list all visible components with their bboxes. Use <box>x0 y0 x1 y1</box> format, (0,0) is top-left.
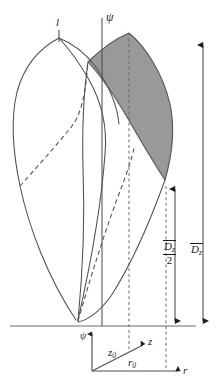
z-offset-label: z0 <box>108 347 116 359</box>
lobe-marker-label: l <box>56 17 59 28</box>
half-diameter-label: Dz 2 <box>163 240 176 267</box>
r-offset-label: r0 <box>128 357 136 369</box>
full-diameter-label: Dz <box>191 243 202 256</box>
r-offset-subscript: 0 <box>132 361 136 370</box>
z-offset-subscript: 0 <box>112 351 116 360</box>
full-diameter-symbol: D <box>191 243 199 255</box>
psi-axis-label-bottom: ψ <box>80 331 86 341</box>
psi-axis-label-top: ψ <box>106 11 113 23</box>
half-diameter-subscript: z <box>172 245 175 254</box>
half-diameter-numerator: Dz <box>163 240 176 253</box>
z-axis-label: z <box>148 336 152 347</box>
half-diameter-symbol: D <box>164 240 172 252</box>
half-diameter-fraction: Dz 2 <box>163 240 176 267</box>
r-axis-label: r <box>183 365 187 376</box>
half-diameter-denominator: 2 <box>163 255 176 266</box>
diagram-vector-layer <box>0 0 220 381</box>
full-diameter-subscript: z <box>199 248 202 257</box>
figure-canvas: ψ l Dz 2 Dz ψ z z0 r0 r <box>0 0 220 381</box>
